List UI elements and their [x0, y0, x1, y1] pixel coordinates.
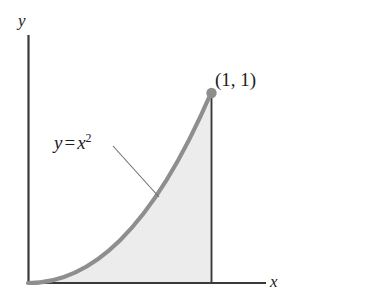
equation-variable: x [77, 132, 85, 153]
shaded-area-under-curve [28, 93, 211, 283]
equation-equals-sign: = [62, 132, 77, 153]
curve-equation-label: y=x2 [54, 133, 92, 152]
equation-leader-line [113, 146, 159, 197]
equation-exponent: 2 [86, 131, 92, 145]
math-figure: y x y=x2 (1, 1) [0, 0, 371, 299]
x-axis-label: x [270, 273, 278, 290]
point-coordinate-label: (1, 1) [215, 70, 256, 89]
y-axis-label: y [18, 12, 26, 29]
